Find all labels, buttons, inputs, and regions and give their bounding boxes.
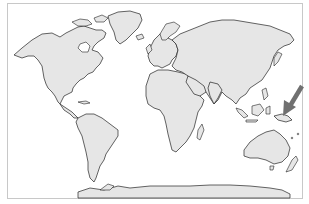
madagascar	[197, 124, 204, 140]
australia	[244, 130, 290, 164]
pacific-island	[291, 137, 293, 139]
arctic-island	[94, 15, 108, 22]
tasmania	[270, 166, 274, 170]
arctic-islands	[72, 19, 92, 26]
caribbean	[78, 101, 90, 104]
new-guinea	[274, 114, 292, 122]
world-map	[0, 0, 309, 204]
central-america	[60, 104, 78, 118]
philippines	[262, 88, 268, 100]
sumatra	[236, 108, 248, 118]
greenland	[108, 11, 142, 44]
borneo	[252, 104, 264, 116]
pacific-island	[297, 133, 299, 135]
north-america	[14, 26, 106, 104]
arrow-annotation	[283, 86, 302, 116]
java	[246, 120, 258, 122]
new-zealand	[286, 156, 298, 172]
south-america	[76, 114, 118, 182]
sulawesi	[266, 106, 270, 114]
iceland	[136, 34, 144, 40]
